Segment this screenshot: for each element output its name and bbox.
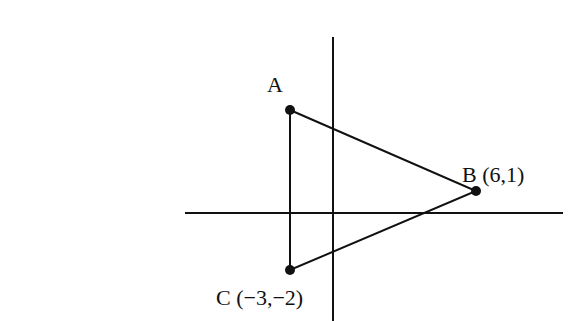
label-c: C (−3,−2) [216, 285, 303, 310]
point-a [285, 105, 295, 115]
triangle-abc [290, 110, 476, 270]
point-b [471, 186, 481, 196]
coordinate-plane: A B (6,1) C (−3,−2) [0, 0, 587, 321]
label-a: A [267, 72, 283, 97]
label-b: B (6,1) [462, 162, 524, 187]
point-c [285, 265, 295, 275]
